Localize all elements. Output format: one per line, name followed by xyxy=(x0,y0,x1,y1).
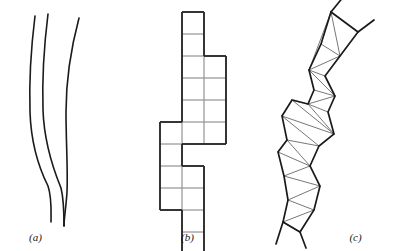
panel-label-c: (c) xyxy=(290,232,393,243)
polyomino-inner-grid xyxy=(160,34,226,232)
triangulated-strip-panel: (c) xyxy=(262,0,393,251)
smooth-curves-svg xyxy=(0,0,131,251)
curve-left-path xyxy=(30,16,51,222)
polyomino-outline xyxy=(160,12,226,251)
figure-container: (a) (b) (c) xyxy=(0,0,393,251)
curve-right-path xyxy=(64,18,79,226)
smooth-curves-panel: (a) xyxy=(0,0,131,251)
curve-middle-path xyxy=(43,14,64,226)
panel-label-b: (b) xyxy=(122,232,253,243)
polyomino-panel: (b) xyxy=(131,0,262,251)
polyomino-svg xyxy=(131,0,262,251)
panel-label-a: (a) xyxy=(0,232,101,243)
triangulated-strip-svg xyxy=(262,0,393,251)
